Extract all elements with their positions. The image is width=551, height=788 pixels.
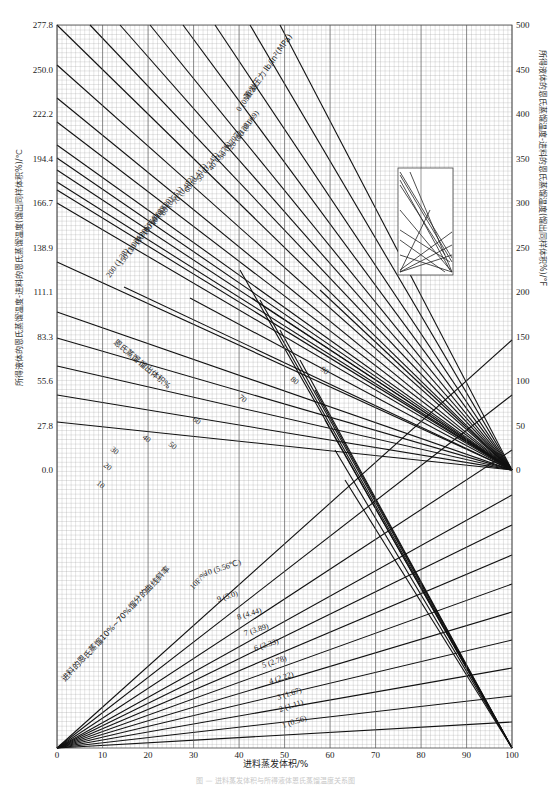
y-right-tick: 450 bbox=[516, 65, 530, 75]
y-left-tick: 138.9 bbox=[33, 243, 54, 253]
y-right-tick: 100 bbox=[516, 376, 530, 386]
y-left-tick: 27.8 bbox=[37, 421, 53, 431]
y-right-tick: 50 bbox=[516, 421, 526, 431]
y-left-tick: 111.1 bbox=[33, 287, 53, 297]
y-left-tick: 194.4 bbox=[33, 154, 54, 164]
x-axis-label: 进料蒸发体积/% bbox=[0, 757, 551, 770]
inset-diagram bbox=[398, 168, 453, 275]
y-left-tick: 250.0 bbox=[33, 65, 54, 75]
y-left-tick: 0.0 bbox=[42, 465, 54, 475]
y-right-tick: 0 bbox=[516, 465, 521, 475]
y-left-tick: 222.2 bbox=[33, 109, 53, 119]
y-right-tick: 150 bbox=[516, 332, 530, 342]
y-right-tick: 350 bbox=[516, 154, 530, 164]
y-right-label: 所得液体的恩氏蒸馏温度-进料的恩氏蒸馏温度(馏出同样体积%)/°F bbox=[538, 50, 548, 286]
y-left-tick: 277.8 bbox=[33, 20, 54, 30]
y-left-tick: 166.7 bbox=[33, 198, 54, 208]
y-right-tick: 250 bbox=[516, 243, 530, 253]
y-right-tick: 400 bbox=[516, 109, 530, 119]
y-left-tick: 55.6 bbox=[37, 376, 53, 386]
y-left-label: 所得液体的恩氏蒸馏温度-进料的恩氏蒸馏温度(馏出同样体积%)/℃ bbox=[14, 150, 24, 386]
chart: 0 (0MPa)10 (0.069)20 (0.138)30 (0.207)40… bbox=[0, 0, 551, 788]
y-right-tick: 300 bbox=[516, 198, 530, 208]
figure-caption: 图 — 进料蒸发体积与所得液体恩氏蒸馏温度关系图 bbox=[0, 775, 551, 785]
y-left-tick: 83.3 bbox=[37, 332, 53, 342]
y-right-tick: 200 bbox=[516, 287, 530, 297]
y-right-tick: 500 bbox=[516, 20, 530, 30]
